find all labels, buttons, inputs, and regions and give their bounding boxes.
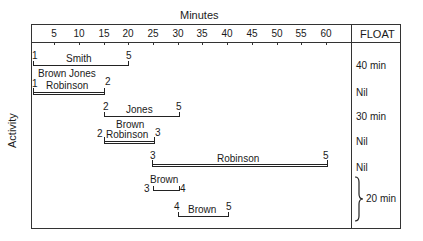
tick-mark: [178, 42, 179, 45]
tick-mark: [104, 42, 105, 45]
tick-label: 50: [271, 28, 282, 39]
float-value-group: 20 min: [366, 193, 396, 204]
tick-mark: [202, 42, 203, 45]
tick-mark: [153, 42, 154, 45]
float-value: Nil: [356, 136, 368, 147]
tick-mark: [128, 42, 129, 45]
end-node: 5: [126, 50, 132, 61]
end-node: 5: [176, 101, 182, 112]
activity-bar: [178, 212, 229, 217]
activity-bar-critical: [152, 160, 328, 167]
brace-icon: [352, 176, 366, 222]
start-node: 3: [144, 183, 150, 194]
tick-label: 30: [172, 28, 183, 39]
tick-label: 15: [98, 28, 109, 39]
end-node: 5: [226, 201, 232, 212]
tick-mark: [54, 42, 55, 45]
end-node: 3: [155, 127, 161, 138]
float-value: 30 min: [356, 111, 386, 122]
tick-mark: [326, 42, 327, 45]
tick-mark: [79, 42, 80, 45]
tick-label: 5: [51, 28, 57, 39]
float-value: Nil: [356, 162, 368, 173]
float-column-title: FLOAT: [360, 28, 395, 40]
x-axis-title: Minutes: [180, 9, 219, 21]
tick-label: 10: [73, 28, 84, 39]
tick-label: 40: [221, 28, 232, 39]
activity-bar-critical: [104, 137, 155, 144]
frame-top: [31, 24, 401, 25]
activity-label-top: Brown Jones: [38, 68, 96, 79]
activity-bar: [33, 61, 129, 66]
activity-bar-critical: [33, 88, 105, 95]
tick-label: 55: [295, 28, 306, 39]
start-node: 1: [32, 50, 38, 61]
tick-label: 35: [196, 28, 207, 39]
tick-mark: [301, 42, 302, 45]
tick-mark: [252, 42, 253, 45]
tick-label: 45: [246, 28, 257, 39]
tick-mark: [227, 42, 228, 45]
tick-mark: [277, 42, 278, 45]
tick-label: 60: [320, 28, 331, 39]
y-axis-title: Activity: [6, 113, 18, 148]
float-value: 40 min: [356, 60, 386, 71]
tick-label: 20: [122, 28, 133, 39]
start-node: 2: [103, 101, 109, 112]
activity-bar: [153, 186, 180, 191]
end-node: 4: [180, 183, 186, 194]
activity-bar: [104, 112, 180, 117]
frame-bottom: [31, 228, 401, 229]
end-node: 2: [105, 76, 111, 87]
start-node: 4: [174, 201, 180, 212]
header-divider: [31, 42, 401, 43]
float-value: Nil: [356, 87, 368, 98]
activity-label: Brown: [150, 174, 178, 185]
frame-right: [400, 24, 401, 229]
start-node: 2: [97, 128, 103, 139]
tick-label: 25: [147, 28, 158, 39]
